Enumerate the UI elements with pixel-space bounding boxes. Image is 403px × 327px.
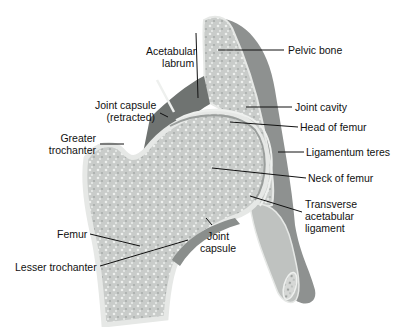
label-line: capsule xyxy=(196,242,240,254)
label-joint-capsule: Joint capsule xyxy=(196,230,240,254)
label-joint-cavity: Joint cavity xyxy=(295,101,347,113)
label-line: Transverse xyxy=(305,198,357,210)
label-ligamentum-teres: Ligamentum teres xyxy=(306,146,390,158)
label-head-of-femur: Head of femur xyxy=(300,121,367,133)
label-line: trochanter xyxy=(48,144,96,156)
label-line: ligament xyxy=(305,222,357,234)
label-acetabular-labrum: Acetabular labrum xyxy=(146,45,196,69)
label-transverse-acetabular-ligament: Transverse acetabular ligament xyxy=(305,198,357,234)
hip-joint-illustration xyxy=(0,0,403,327)
label-line: Joint capsule xyxy=(95,99,155,111)
label-line: acetabular xyxy=(305,210,357,222)
label-pelvic-bone: Pelvic bone xyxy=(288,44,342,56)
label-line: Joint xyxy=(196,230,240,242)
label-line: labrum xyxy=(146,57,196,69)
label-line: Acetabular xyxy=(146,45,196,57)
femur xyxy=(85,111,268,325)
label-line: (retracted) xyxy=(95,111,155,123)
label-joint-capsule-retracted: Joint capsule (retracted) xyxy=(95,99,155,123)
label-line: Greater xyxy=(48,132,96,144)
label-greater-trochanter: Greater trochanter xyxy=(48,132,96,156)
label-neck-of-femur: Neck of femur xyxy=(308,172,373,184)
label-femur: Femur xyxy=(57,228,87,240)
label-lesser-trochanter: Lesser trochanter xyxy=(15,261,97,273)
